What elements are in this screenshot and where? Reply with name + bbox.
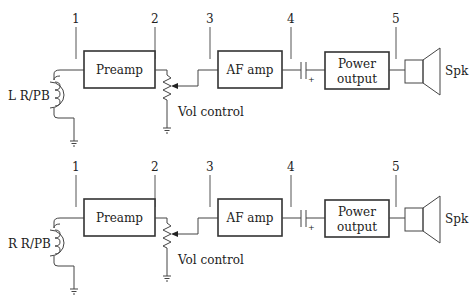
af-amp-label: AF amp — [225, 211, 273, 225]
test-point-1-label: 1 — [72, 160, 80, 174]
speaker-label: Spk — [445, 212, 469, 226]
preamp-label: Preamp — [96, 211, 143, 225]
test-point-2-label: 2 — [151, 12, 159, 26]
stereo-block-diagram: 1 2 3 4 5 L R/PB Preamp Vol control AF a… — [0, 0, 472, 303]
tape-head-label: R R/PB — [8, 237, 51, 251]
test-point-2-label: 2 — [151, 160, 159, 174]
test-point-5-label: 5 — [392, 12, 400, 26]
channel-left: 1 2 3 4 5 L R/PB Preamp Vol control AF a… — [8, 12, 469, 146]
capacitor-polarity-mark: + — [308, 75, 315, 84]
af-amp-label: AF amp — [225, 63, 273, 77]
preamp-label: Preamp — [96, 63, 143, 77]
tape-head-label: L R/PB — [8, 89, 50, 103]
test-point-3-label: 3 — [206, 12, 214, 26]
power-output-label-line1: Power — [338, 57, 376, 71]
power-output-label-line2: output — [337, 72, 377, 86]
vol-control-label: Vol control — [177, 253, 244, 267]
test-point-1-label: 1 — [72, 12, 80, 26]
speaker-label: Spk — [445, 64, 469, 78]
test-point-4-label: 4 — [287, 12, 295, 26]
test-point-4-label: 4 — [287, 160, 295, 174]
test-point-5-label: 5 — [392, 160, 400, 174]
power-output-label-line1: Power — [338, 205, 376, 219]
vol-control-label: Vol control — [177, 105, 244, 119]
power-output-label-line2: output — [337, 220, 377, 234]
capacitor-polarity-mark: + — [308, 223, 315, 232]
test-point-3-label: 3 — [206, 160, 214, 174]
channel-right: 1 2 3 4 5 R R/PB Preamp Vol control AF a… — [8, 160, 469, 294]
